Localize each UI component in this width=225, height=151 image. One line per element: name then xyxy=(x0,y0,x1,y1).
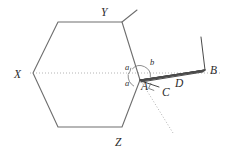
label-angle-a-lower: a xyxy=(125,78,129,88)
geometry-svg-canvas: X Y Z A B C D a a b xyxy=(0,0,225,151)
label-point-b: B xyxy=(210,64,217,76)
label-point-d: D xyxy=(174,77,184,89)
label-point-a: A xyxy=(140,80,149,92)
label-point-c: C xyxy=(162,86,170,98)
angle-arc-b xyxy=(132,66,150,78)
label-point-y: Y xyxy=(101,6,109,18)
segment-y-extension xyxy=(122,10,137,22)
label-point-z: Z xyxy=(115,136,122,148)
segment-b-upward xyxy=(201,37,205,70)
hexagon-outline xyxy=(33,22,140,127)
label-point-x: X xyxy=(13,68,22,80)
label-angle-b: b xyxy=(150,57,154,67)
label-angle-a-upper: a xyxy=(125,62,129,72)
geometry-figure: X Y Z A B C D a a b xyxy=(0,0,225,151)
